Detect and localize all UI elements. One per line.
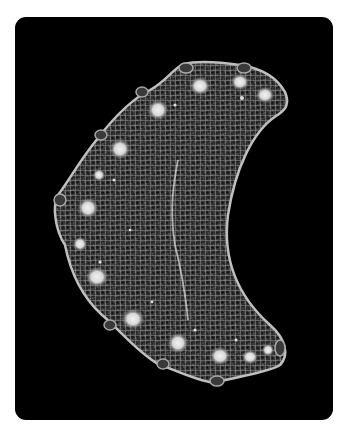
microfossil-image: [0, 0, 344, 438]
